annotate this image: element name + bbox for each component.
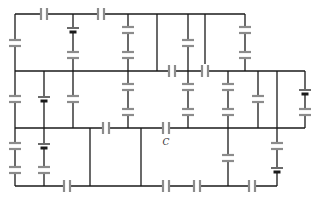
capacitor-icon <box>8 95 22 103</box>
battery-icon <box>66 27 80 33</box>
capacitor-icon <box>121 51 135 59</box>
capacitor-icon <box>201 64 209 78</box>
capacitor-icon <box>162 121 170 135</box>
capacitor-icon <box>251 95 265 103</box>
capacitors <box>8 7 311 193</box>
capacitor-icon <box>270 142 284 150</box>
capacitor-icon <box>238 51 252 59</box>
capacitor-icon <box>193 179 201 193</box>
capacitor-icon <box>248 179 256 193</box>
capacitor-icon <box>121 26 135 34</box>
capacitor-icon <box>66 51 80 59</box>
battery-icon <box>37 96 51 102</box>
capacitor-icon <box>298 108 311 116</box>
battery-icon <box>298 89 311 95</box>
battery-icon <box>37 143 51 149</box>
capacitor-icon <box>181 83 195 91</box>
capacitor-icon <box>66 95 80 103</box>
capacitor-icon <box>8 142 22 150</box>
capacitor-icon <box>181 39 195 47</box>
battery-icon <box>270 167 284 173</box>
capacitor-icon <box>181 108 195 116</box>
capacitor-icon <box>121 108 135 116</box>
capacitor-icon <box>221 154 235 162</box>
capacitor-icon <box>37 166 51 174</box>
capacitor-label-c: C <box>163 137 170 147</box>
circuit-diagram: C <box>0 0 311 200</box>
capacitor-icon <box>8 166 22 174</box>
capacitor-icon <box>121 83 135 91</box>
capacitor-icon <box>162 179 170 193</box>
capacitor-icon <box>63 179 71 193</box>
capacitor-icon <box>221 108 235 116</box>
capacitor-icon <box>102 121 110 135</box>
capacitor-icon <box>238 26 252 34</box>
capacitor-icon <box>97 7 105 21</box>
capacitor-icon <box>8 39 22 47</box>
capacitor-icon <box>221 83 235 91</box>
capacitor-icon <box>168 64 176 78</box>
capacitor-icon <box>40 7 48 21</box>
